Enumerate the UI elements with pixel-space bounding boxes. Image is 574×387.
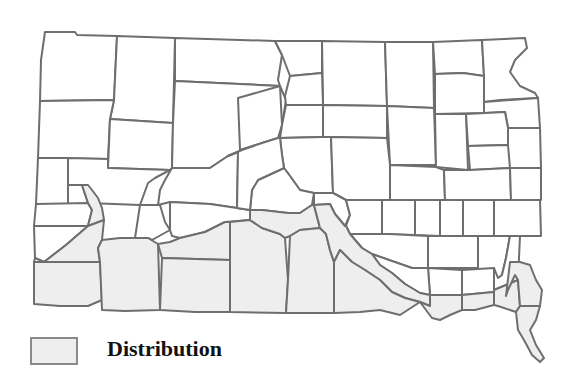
county <box>463 200 494 236</box>
county <box>462 268 494 295</box>
county <box>390 165 445 200</box>
county <box>346 200 382 234</box>
county <box>428 236 478 268</box>
county <box>494 200 541 236</box>
south-dakota-county-map <box>0 0 574 387</box>
county <box>40 32 117 101</box>
distribution-county <box>516 306 544 362</box>
county <box>285 73 323 105</box>
legend-swatch-distribution <box>30 337 78 365</box>
county <box>385 42 434 108</box>
county <box>110 36 175 123</box>
county <box>175 38 282 86</box>
county <box>435 73 484 114</box>
county <box>135 205 170 240</box>
distribution-county <box>98 238 160 311</box>
county <box>444 168 511 200</box>
county <box>108 119 173 170</box>
county <box>322 41 387 106</box>
county <box>387 106 436 165</box>
distribution-county <box>462 292 494 310</box>
county <box>433 40 484 76</box>
county <box>36 158 68 205</box>
county <box>508 128 541 168</box>
county <box>435 114 468 170</box>
county <box>382 200 415 235</box>
county <box>510 168 541 200</box>
county <box>468 145 510 170</box>
county <box>440 200 463 236</box>
county <box>34 203 92 226</box>
county <box>466 112 508 146</box>
county <box>38 100 114 159</box>
county <box>280 105 323 138</box>
county <box>323 105 387 138</box>
distribution-county <box>160 258 230 312</box>
county <box>482 38 538 102</box>
county <box>331 137 390 200</box>
distribution-county <box>34 262 102 306</box>
county <box>428 268 462 295</box>
legend-label-distribution: Distribution <box>107 336 222 362</box>
county <box>415 200 440 236</box>
